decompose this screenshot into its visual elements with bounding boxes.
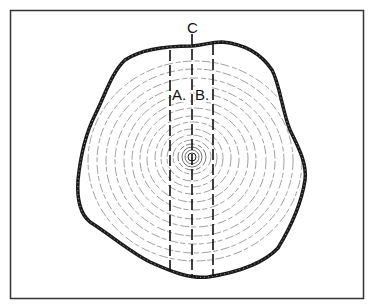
label-b: B.: [195, 86, 209, 103]
label-c: C: [187, 19, 198, 36]
label-a: A.: [172, 86, 186, 103]
diagram-frame: [11, 11, 364, 299]
tree-cross-section-diagram: A. B. C: [0, 0, 371, 304]
